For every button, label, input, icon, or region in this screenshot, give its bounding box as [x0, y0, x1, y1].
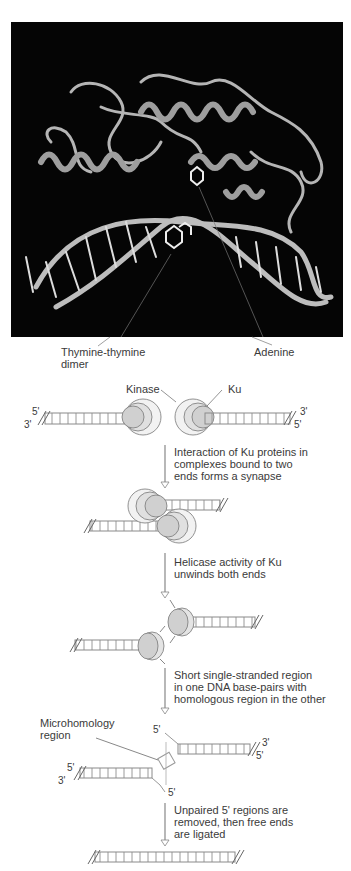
step3-unwound-ends — [70, 600, 263, 664]
end-label-bottom-5prime: 5' — [168, 787, 175, 799]
end-label-right-3prime: 3' — [300, 406, 307, 418]
step5-ligated-dna — [88, 850, 244, 864]
arrow-2 — [161, 553, 169, 598]
end-label-left-5prime-s4: 5' — [67, 762, 74, 774]
end-label-top-5prime: 5' — [153, 724, 160, 736]
step-text-synapse: Interaction of Ku proteins in complexes … — [174, 446, 308, 482]
step4-microhomology-pairing — [74, 733, 260, 792]
end-label-left-5prime: 5' — [32, 406, 39, 418]
end-label-right-3prime-s4: 3' — [262, 737, 269, 749]
kinase-label: Kinase — [126, 383, 160, 395]
arrow-1 — [161, 445, 169, 488]
arrow-3 — [161, 668, 169, 714]
end-label-right-5prime-s4: 5' — [256, 750, 263, 762]
step2-synapse — [84, 489, 228, 543]
end-label-left-3prime: 3' — [24, 419, 31, 431]
step-text-microhomology: Short single-stranded region in one DNA … — [174, 669, 326, 705]
step-text-ligation: Unpaired 5' regions are removed, then fr… — [174, 804, 293, 840]
arrow-4 — [161, 803, 169, 846]
end-label-left-3prime-s4: 3' — [58, 775, 65, 787]
step1-dna-ends — [38, 390, 296, 435]
ku-label: Ku — [228, 383, 241, 395]
step-text-helicase: Helicase activity of Ku unwinds both end… — [174, 556, 282, 580]
end-label-right-5prime: 5' — [294, 419, 301, 431]
microhomology-region-label: Microhomology region — [40, 717, 115, 741]
